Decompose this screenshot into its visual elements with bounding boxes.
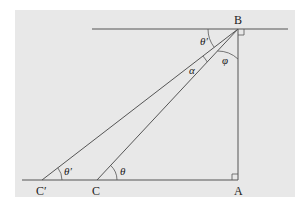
label-theta: θ [120,165,126,177]
label-C-prime: C′ [36,184,47,198]
label-alpha: α [189,64,195,76]
label-theta-prime-top: θ′ [200,35,208,47]
label-A: A [234,184,243,198]
geometry-diagram: B A C C′ θ θ′ θ′ α φ [0,0,306,211]
label-theta-prime-bottom: θ′ [64,165,72,177]
label-phi: φ [222,54,228,66]
label-C: C [92,184,100,198]
label-B: B [234,13,242,27]
